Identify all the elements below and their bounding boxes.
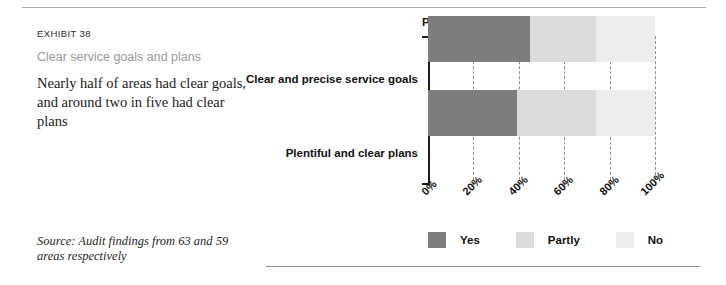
bottom-divider bbox=[266, 266, 700, 267]
chart-legend: YesPartlyNo bbox=[428, 232, 699, 248]
bar-row bbox=[428, 16, 655, 62]
legend-label: No bbox=[648, 234, 663, 246]
legend-label: Partly bbox=[548, 234, 580, 246]
x-tick-100%: 100% bbox=[638, 169, 666, 197]
x-tick-60%: 60% bbox=[551, 173, 575, 197]
legend-item-yes[interactable]: Yes bbox=[428, 232, 480, 248]
exhibit-number-label: EXHIBIT 38 bbox=[37, 27, 252, 40]
bar-row bbox=[428, 90, 655, 136]
x-tick-20%: 20% bbox=[460, 173, 484, 197]
top-divider bbox=[22, 7, 706, 8]
category-label: Plentiful and clear plans bbox=[158, 147, 418, 159]
category-label: Clear and precise service goals bbox=[158, 73, 418, 85]
legend-swatch-icon bbox=[616, 232, 634, 248]
bar-segment-partly bbox=[517, 90, 596, 136]
legend-swatch-icon bbox=[428, 232, 446, 248]
bar-segment-no bbox=[596, 16, 655, 62]
legend-item-no[interactable]: No bbox=[616, 232, 663, 248]
x-tick-0%: 0% bbox=[419, 178, 439, 198]
legend-item-partly[interactable]: Partly bbox=[516, 232, 580, 248]
x-tick-40%: 40% bbox=[506, 173, 530, 197]
bar-segment-no bbox=[596, 90, 655, 136]
x-tick-80%: 80% bbox=[597, 173, 621, 197]
source-note: Source: Audit findings from 63 and 59 ar… bbox=[37, 234, 257, 264]
bar-segment-yes bbox=[428, 16, 530, 62]
legend-swatch-icon bbox=[516, 232, 534, 248]
exhibit-figure: EXHIBIT 38 Clear service goals and plans… bbox=[0, 0, 726, 285]
bar-segment-yes bbox=[428, 90, 517, 136]
bar-segment-partly bbox=[530, 16, 596, 62]
exhibit-subtitle: Clear service goals and plans bbox=[37, 49, 252, 65]
gridline-100 bbox=[655, 36, 657, 185]
legend-label: Yes bbox=[460, 234, 480, 246]
